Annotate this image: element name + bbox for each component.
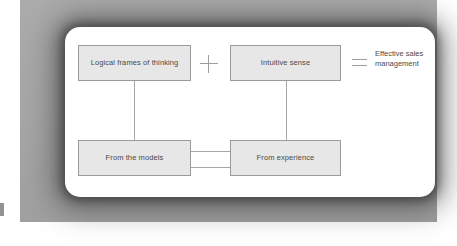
result-label: Effective sales management	[375, 49, 437, 69]
equals-icon-top-bar	[352, 59, 367, 60]
result-label-line-1: Effective sales	[375, 49, 437, 59]
result-label-line-2: management	[375, 59, 437, 69]
plus-icon-vertical-bar	[208, 55, 209, 73]
equals-icon-bottom-bar	[352, 65, 367, 66]
connector-intuitive-to-experience	[286, 81, 287, 140]
connector-models-to-experience-upper	[191, 151, 230, 152]
plus-icon	[200, 55, 218, 73]
connector-logical-to-models	[134, 81, 135, 140]
node-label: Intuitive sense	[261, 58, 310, 67]
page-background: Logical frames of thinking Intuitive sen…	[0, 0, 457, 246]
node-label: Logical frames of thinking	[91, 58, 179, 67]
node-intuitive-sense: Intuitive sense	[230, 45, 341, 81]
node-logical-frames-of-thinking: Logical frames of thinking	[78, 45, 191, 81]
page-binding-mark	[0, 203, 4, 216]
figure-panel: Logical frames of thinking Intuitive sen…	[20, 0, 437, 222]
diagram-card: Logical frames of thinking Intuitive sen…	[65, 27, 435, 197]
equals-icon	[352, 57, 367, 68]
node-label: From experience	[257, 153, 315, 162]
node-from-the-models: From the models	[78, 140, 191, 176]
connector-models-to-experience-lower	[191, 167, 230, 168]
node-label: From the models	[106, 153, 164, 162]
node-from-experience: From experience	[230, 140, 341, 176]
